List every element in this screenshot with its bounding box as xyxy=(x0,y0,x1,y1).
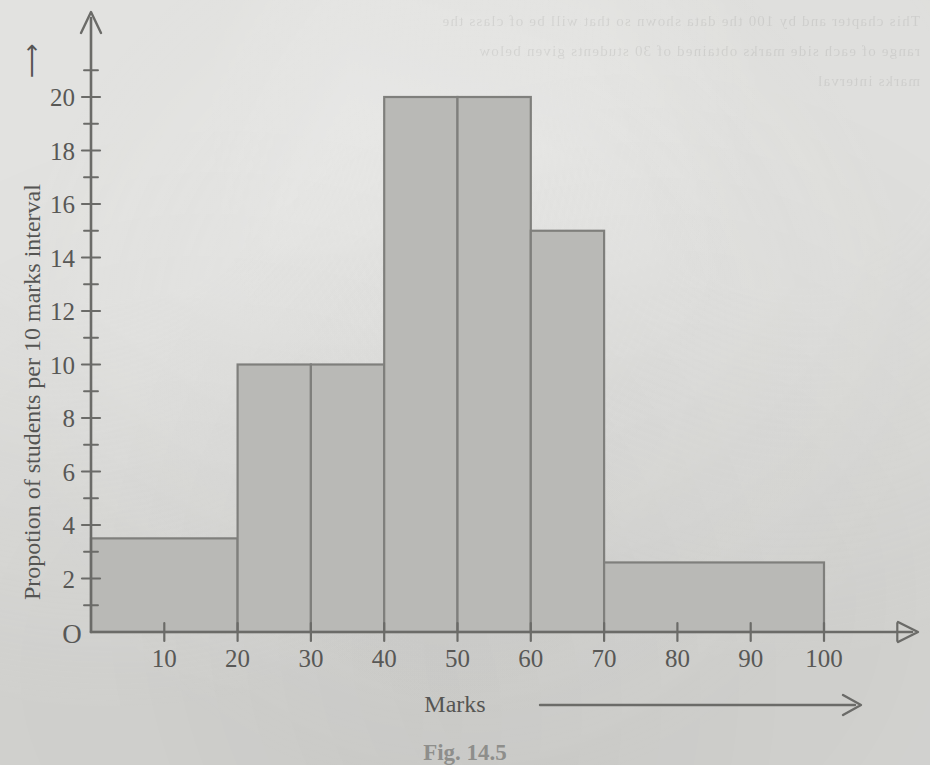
histogram-figure: 2468101214161820 102030405060708090100 O… xyxy=(0,0,930,765)
histogram-bar xyxy=(604,562,824,632)
x-tick-label: 80 xyxy=(665,645,690,672)
figure-caption: Fig. 14.5 xyxy=(423,740,507,765)
x-axis-tick-labels: 102030405060708090100 xyxy=(152,645,843,672)
x-tick-label: 60 xyxy=(518,645,543,672)
x-tick-label: 10 xyxy=(152,645,177,672)
histogram-bar xyxy=(384,97,457,632)
y-axis-title-arrow: ⟶ xyxy=(19,44,45,78)
y-tick-label: 14 xyxy=(50,245,76,272)
y-tick-label: 8 xyxy=(63,405,76,432)
histogram-bar xyxy=(238,365,311,633)
x-tick-label: 50 xyxy=(445,645,470,672)
histogram-bar xyxy=(458,97,531,632)
x-tick-label: 30 xyxy=(298,645,323,672)
y-tick-label: 2 xyxy=(63,566,76,593)
histogram-bar xyxy=(311,365,384,633)
y-tick-label: 6 xyxy=(63,459,76,486)
y-tick-label: 12 xyxy=(50,298,75,325)
x-tick-label: 40 xyxy=(372,645,397,672)
y-axis-title: Propotion of students per 10 marks inter… xyxy=(19,184,45,600)
origin-label: O xyxy=(62,619,82,649)
y-tick-label: 20 xyxy=(50,84,75,111)
x-axis-title-group: Marks xyxy=(424,691,861,717)
histogram-bar xyxy=(91,538,238,632)
y-axis-title-group: Propotion of students per 10 marks inter… xyxy=(19,44,45,600)
histogram-chart: 2468101214161820 102030405060708090100 O… xyxy=(0,0,930,765)
x-tick-label: 100 xyxy=(805,645,843,672)
x-tick-label: 20 xyxy=(225,645,250,672)
x-tick-label: 90 xyxy=(738,645,763,672)
y-tick-label: 10 xyxy=(50,352,75,379)
y-axis-tick-labels: 2468101214161820 xyxy=(50,84,76,593)
y-tick-label: 18 xyxy=(50,138,75,165)
y-tick-label: 16 xyxy=(50,191,75,218)
x-tick-label: 70 xyxy=(592,645,617,672)
y-tick-label: 4 xyxy=(63,512,76,539)
histogram-bar xyxy=(531,231,604,632)
histogram-bars xyxy=(91,97,824,632)
x-axis-title: Marks xyxy=(424,691,485,717)
